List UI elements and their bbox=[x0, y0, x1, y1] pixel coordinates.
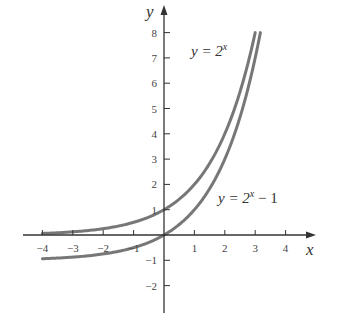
y-tick-label: 8 bbox=[152, 27, 158, 39]
x-tick-label: 1 bbox=[192, 242, 198, 254]
y-axis-arrow-icon bbox=[161, 5, 168, 15]
x-tick-label: 2 bbox=[222, 242, 228, 254]
y-tick-label: 3 bbox=[152, 153, 158, 165]
curve-label-2x-main: y = 2 bbox=[189, 43, 223, 59]
x-tick-label: −2 bbox=[97, 242, 109, 254]
y-tick-label: −1 bbox=[145, 254, 157, 266]
y-tick-label: 5 bbox=[152, 103, 158, 115]
y-tick-label: 4 bbox=[152, 128, 158, 140]
y-tick-label: 1 bbox=[152, 204, 158, 216]
curve-label-2x-minus-1-main: y = 2 bbox=[216, 190, 250, 206]
x-axis-arrow-icon bbox=[306, 232, 316, 239]
x-tick-label: 3 bbox=[252, 242, 258, 254]
x-tick-label: −3 bbox=[67, 242, 79, 254]
curve-label-2x-minus-1: y = 2x − 1 bbox=[216, 188, 278, 206]
y-tick-label: 2 bbox=[152, 178, 158, 190]
exponential-graph: −4−3−2−11234−2−112345678 y x y = 2x y = … bbox=[0, 0, 342, 323]
y-tick-label: 7 bbox=[152, 52, 158, 64]
x-tick-label: −4 bbox=[37, 242, 49, 254]
x-tick-label: 4 bbox=[283, 242, 289, 254]
curve-label-2x-exp: x bbox=[222, 41, 228, 52]
y-axis-label: y bbox=[144, 2, 154, 21]
ticks: −4−3−2−11234−2−112345678 bbox=[37, 27, 289, 292]
curve-2-pow-x-minus-1 bbox=[42, 33, 260, 259]
curve-label-2x-minus-1-tail: − 1 bbox=[254, 190, 277, 206]
x-tick-label: −1 bbox=[128, 242, 140, 254]
curve-label-2x: y = 2x bbox=[189, 41, 228, 59]
y-tick-label: 6 bbox=[152, 77, 158, 89]
curves bbox=[42, 33, 260, 259]
x-axis-label: x bbox=[305, 240, 314, 259]
y-tick-label: −2 bbox=[145, 280, 157, 292]
